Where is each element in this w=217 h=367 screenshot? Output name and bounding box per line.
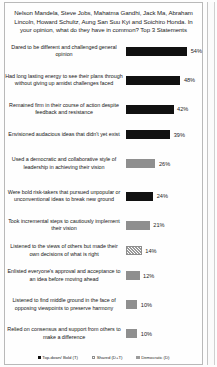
chart-row: Listened to find middle ground in the fa… [5,288,202,321]
chart-container: Nelson Mandela, Steve Jobs, Mahatma Gand… [5,3,202,364]
chart-legend: Top-down/ Bold (T)Shared (D+T)Democratic… [5,355,202,360]
legend-swatch-icon [136,356,139,359]
bar-value-label: 24% [157,193,168,199]
bar-category-label: Took incremental steps to cautiously imp… [5,218,126,233]
bar [126,105,174,114]
bar [126,159,155,168]
bar [126,221,150,230]
bar-value-label: 12% [143,273,154,279]
page-edge-artifact [207,2,215,365]
bar-track: 42% [126,105,202,114]
bar-category-label: Envisioned audacious ideas that didn't y… [5,131,126,139]
chart-row: Dared to be different and challenged gen… [5,39,202,64]
chart-row: Envisioned audacious ideas that didn't y… [5,122,202,147]
bar-track: 26% [126,159,202,168]
bar-category-label: Listened to find middle ground in the fa… [5,297,126,312]
bar-category-label: Were bold risk-takers that pursued unpop… [5,189,126,204]
chart-row: Had long lasting energy to see their pla… [5,64,202,97]
chart-row: Enlisted everyone's approval and accepta… [5,263,202,288]
bar [126,246,142,255]
bar [126,192,153,201]
bar-track: 10% [126,300,202,309]
bar-value-label: 10% [141,302,152,308]
bar-track: 12% [126,271,202,280]
bar [126,271,140,280]
bar-category-label: Dared to be different and challenged gen… [5,44,126,59]
chart-title: Nelson Mandela, Steve Jobs, Mahatma Gand… [5,3,202,35]
bar-category-label: Used a democratic and collaborative styl… [5,156,126,171]
legend-label: Democratic (D) [141,355,169,360]
chart-row: Listened to the views of others but made… [5,238,202,263]
bar-track: 10% [126,329,202,338]
bar-track: 24% [126,192,202,201]
legend-item[interactable]: Shared (D+T) [92,355,122,360]
legend-item[interactable]: Democratic (D) [136,355,169,360]
bar-value-label: 21% [153,222,164,228]
bar [126,130,170,139]
bar-category-label: Relied on consensus and support from oth… [5,326,126,341]
legend-label: Shared (D+T) [97,355,123,360]
bar [126,329,137,338]
bar-track: 21% [126,221,202,230]
legend-swatch-icon [38,356,41,359]
bar [126,300,137,309]
bar-chart-plot: Dared to be different and challenged gen… [5,39,202,347]
bar-value-label: 14% [145,248,156,254]
chart-row: Took incremental steps to cautiously imp… [5,213,202,238]
legend-item[interactable]: Top-down/ Bold (T) [38,355,78,360]
chart-page: Nelson Mandela, Steve Jobs, Mahatma Gand… [0,0,217,367]
chart-row: Were bold risk-takers that pursued unpop… [5,180,202,213]
chart-row: Remained firm in their course of action … [5,97,202,122]
bar-value-label: 39% [174,132,185,138]
bar [126,76,180,85]
bar-track: 54% [126,47,202,56]
bar-track: 39% [126,130,202,139]
bar-value-label: 54% [191,48,202,54]
bar [126,47,187,56]
bar-track: 48% [126,76,202,85]
bar-value-label: 10% [141,331,152,337]
bar-value-label: 48% [184,77,195,83]
chart-row: Used a democratic and collaborative styl… [5,147,202,180]
bar-value-label: 42% [177,106,188,112]
legend-label: Top-down/ Bold (T) [42,355,78,360]
bar-value-label: 26% [159,161,170,167]
legend-swatch-icon [92,356,95,359]
bar-category-label: Remained firm in their course of action … [5,102,126,117]
bar-category-label: Had long lasting energy to see their pla… [5,73,126,88]
chart-row: Relied on consensus and support from oth… [5,321,202,346]
bar-category-label: Listened to the views of others but made… [5,243,126,258]
bar-track: 14% [126,246,202,255]
bar-category-label: Enlisted everyone's approval and accepta… [5,268,126,283]
